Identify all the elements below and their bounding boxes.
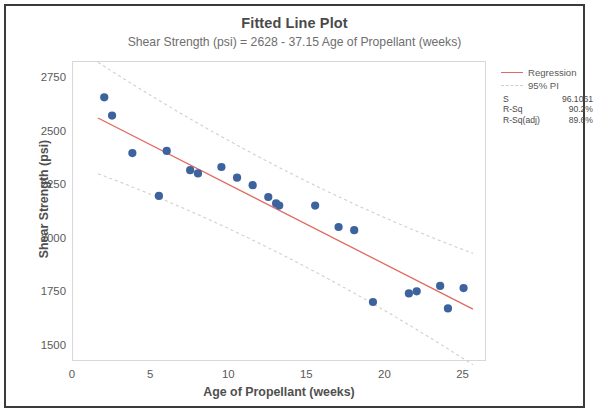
data-point <box>369 298 377 306</box>
data-point <box>405 289 413 297</box>
data-point <box>128 149 136 157</box>
statistic-value: 90.2% <box>569 104 593 114</box>
data-point <box>436 282 444 290</box>
statistic-row: R-Sq(adj)89.6% <box>503 115 593 125</box>
data-point <box>186 166 194 174</box>
regression-line-icon <box>501 68 523 78</box>
data-point <box>275 201 283 209</box>
prediction-interval-icon <box>501 81 523 91</box>
x-axis-title: Age of Propellant (weeks) <box>72 385 486 399</box>
statistic-row: S96.1061 <box>503 94 593 104</box>
y-tick-label: 1500 <box>22 339 66 351</box>
statistic-value: 89.6% <box>569 115 593 125</box>
data-point <box>334 223 342 231</box>
data-point <box>444 304 452 312</box>
chart-legend: Regression 95% PI <box>501 66 593 92</box>
y-axis-title: Shear Strength (psi) <box>37 89 51 309</box>
plot-area <box>72 61 486 361</box>
statistic-key: R-Sq(adj) <box>503 115 540 125</box>
data-point <box>311 201 319 209</box>
x-tick-label: 0 <box>52 368 92 380</box>
data-point <box>264 193 272 201</box>
data-point <box>108 111 116 119</box>
data-point <box>459 284 467 292</box>
data-points <box>100 93 468 312</box>
x-tick-label: 10 <box>208 368 248 380</box>
chart-subtitle: Shear Strength (psi) = 2628 - 37.15 Age … <box>6 35 583 49</box>
data-point <box>194 169 202 177</box>
statistics-box: S96.1061R-Sq90.2%R-Sq(adj)89.6% <box>503 94 593 125</box>
x-tick-label: 15 <box>286 368 326 380</box>
x-tick-label: 5 <box>130 368 170 380</box>
regression-line <box>98 118 473 309</box>
x-tick-label: 25 <box>443 368 483 380</box>
data-point <box>413 287 421 295</box>
statistic-key: S <box>503 94 509 104</box>
data-point <box>217 163 225 171</box>
data-point <box>100 93 108 101</box>
legend-label-prediction-interval: 95% PI <box>528 80 559 91</box>
data-point <box>249 181 257 189</box>
statistic-key: R-Sq <box>503 104 523 114</box>
statistic-value: 96.1061 <box>562 94 593 104</box>
data-point <box>233 174 241 182</box>
data-point <box>163 147 171 155</box>
statistic-row: R-Sq90.2% <box>503 104 593 114</box>
plot-svg <box>73 62 487 362</box>
data-point <box>155 192 163 200</box>
chart-frame: Fitted Line Plot Shear Strength (psi) = … <box>4 4 585 408</box>
chart-title: Fitted Line Plot <box>6 15 583 31</box>
x-tick-label: 20 <box>364 368 404 380</box>
legend-item-regression: Regression <box>501 66 593 79</box>
legend-label-regression: Regression <box>528 67 577 78</box>
data-point <box>350 226 358 234</box>
legend-item-prediction-interval: 95% PI <box>501 79 593 92</box>
y-tick-label: 2750 <box>22 71 66 83</box>
